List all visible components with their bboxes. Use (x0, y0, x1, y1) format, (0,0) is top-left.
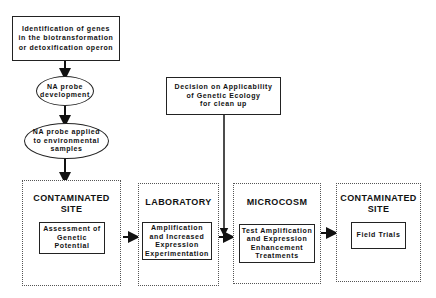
probe-applied-line-2: to environmental (34, 137, 100, 146)
stage-3-title: MICROCOSM (234, 197, 320, 208)
test-amplification-line-2: and Expression (247, 235, 308, 244)
decision-line-3: for clean up (200, 100, 247, 109)
amplification-line-1: Amplification (151, 224, 203, 233)
amplification-line-2: and Increased (150, 233, 205, 242)
test-amplification-box: Test Amplification and Expression Enhanc… (239, 224, 315, 263)
test-amplification-line-1: Test Amplification (242, 227, 313, 236)
probe-development-line-1: NA probe (47, 83, 83, 92)
probe-development-line-2: development (40, 91, 90, 100)
stage-4-title-line-2: SITE (337, 204, 420, 215)
probe-development-ellipse: NA probe development (36, 76, 94, 106)
probe-applied-line-1: NA probe applied (33, 128, 100, 137)
assessment-line-1: Assessment of (43, 225, 101, 234)
amplification-line-3: Expression (155, 241, 199, 250)
test-amplification-line-4: Treatments (255, 252, 298, 261)
probe-applied-line-3: samples (50, 145, 82, 154)
field-trials-box: Field Trials (351, 222, 406, 249)
probe-applied-ellipse: NA probe applied to environmental sample… (24, 123, 109, 159)
assessment-line-2: Genetic (57, 234, 87, 243)
stage-2-title: LABORATORY (139, 197, 218, 208)
stage-1-title-line-1: CONTAMINATED (23, 193, 120, 204)
decision-box: Decision on Applicability of Genetic Eco… (166, 77, 281, 115)
identification-box: Identification of genes in the biotransf… (12, 16, 120, 61)
stage-1-title-line-2: SITE (23, 204, 120, 215)
identification-line-2: in the biotransformation (19, 34, 114, 43)
decision-line-1: Decision on Applicability (175, 83, 273, 92)
identification-line-1: Identification of genes (22, 25, 110, 34)
assessment-line-3: Potential (55, 242, 90, 251)
decision-line-2: of Genetic Ecology (186, 92, 260, 101)
amplification-box: Amplification and Increased Expression E… (142, 222, 212, 260)
test-amplification-line-3: Enhancement (251, 244, 304, 253)
identification-line-3: or detoxification operon (19, 44, 114, 53)
amplification-line-4: Experimentation (145, 250, 209, 259)
field-trials-label: Field Trials (357, 231, 401, 240)
stage-4-title-line-1: CONTAMINATED (337, 193, 420, 204)
assessment-box: Assessment of Genetic Potential (39, 222, 105, 254)
